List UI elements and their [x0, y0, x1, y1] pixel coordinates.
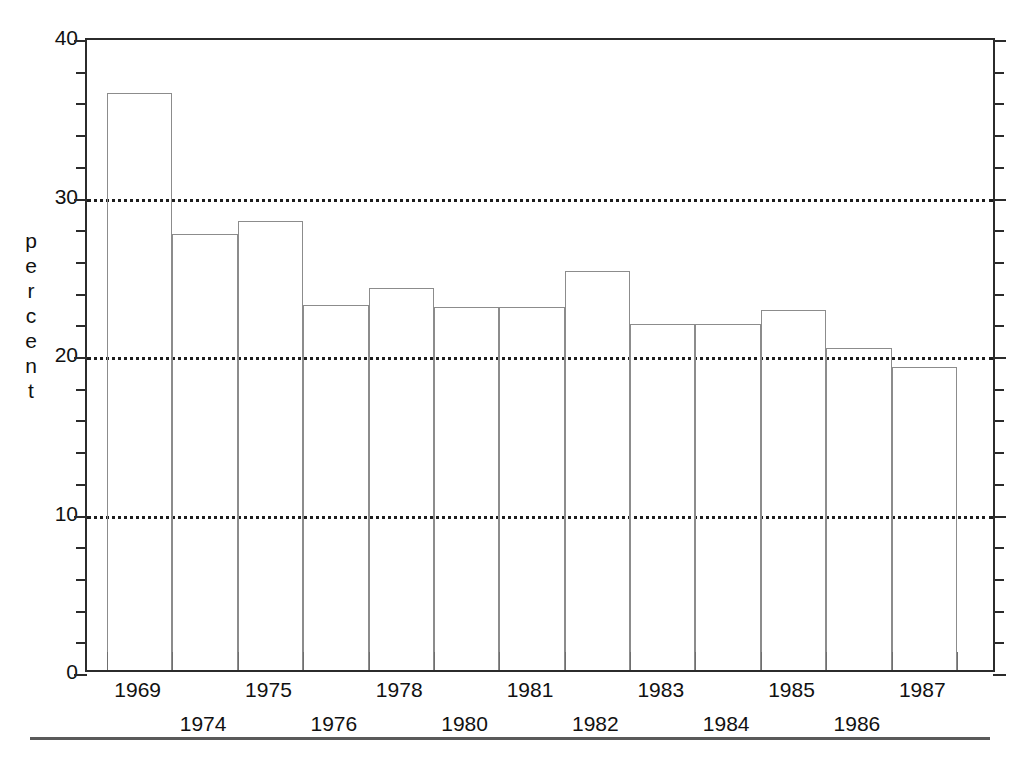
x-tick-label-1982: 1982 [572, 712, 619, 736]
x-tick-6 [499, 652, 500, 670]
y-minor-tick-14 [76, 452, 87, 454]
y-minor-tick-18 [76, 389, 87, 391]
x-tick-label-1978: 1978 [376, 678, 423, 702]
bar-1983 [630, 324, 695, 670]
bottom-rule [30, 737, 990, 740]
bar-1982 [565, 271, 630, 670]
y-major-tick-right-20 [993, 357, 1006, 359]
y-tick-label-10: 10 [34, 502, 78, 526]
x-tick-3 [303, 652, 304, 670]
y-minor-tick-right-38 [993, 72, 1004, 74]
y-minor-tick-right-36 [993, 103, 1004, 105]
y-major-tick-right-0 [993, 674, 1006, 676]
y-minor-tick-4 [76, 611, 87, 613]
x-tick-label-1980: 1980 [441, 712, 488, 736]
y-minor-tick-right-6 [993, 579, 1004, 581]
x-tick-2 [238, 652, 239, 670]
bar-1969 [107, 93, 172, 670]
x-tick-12 [892, 652, 893, 670]
bar-series [87, 40, 993, 670]
x-tick-10 [761, 652, 762, 670]
y-minor-tick-right-2 [993, 642, 1004, 644]
x-tick-13 [957, 652, 958, 670]
y-major-tick-20 [74, 357, 87, 359]
bar-1985 [761, 310, 826, 670]
x-tick-label-1981: 1981 [507, 678, 554, 702]
y-minor-tick-36 [76, 103, 87, 105]
plot-area [85, 38, 995, 672]
y-minor-tick-right-26 [993, 262, 1004, 264]
x-tick-8 [630, 652, 631, 670]
x-tick-label-1986: 1986 [834, 712, 881, 736]
y-axis-tick-labels: 010203040 [20, 0, 78, 763]
y-major-tick-40 [74, 40, 87, 42]
y-major-tick-30 [74, 199, 87, 201]
y-tick-label-40: 40 [34, 26, 78, 50]
y-tick-label-20: 20 [34, 343, 78, 367]
x-tick-11 [826, 652, 827, 670]
bar-1976 [303, 305, 368, 670]
y-minor-tick-right-18 [993, 389, 1004, 391]
bar-1978 [369, 288, 434, 670]
x-tick-7 [565, 652, 566, 670]
x-tick-label-1974: 1974 [180, 712, 227, 736]
y-minor-tick-34 [76, 135, 87, 137]
y-minor-tick-28 [76, 230, 87, 232]
y-major-tick-0 [74, 674, 87, 676]
bar-1980 [434, 307, 499, 670]
y-minor-tick-6 [76, 579, 87, 581]
x-tick-5 [434, 652, 435, 670]
y-minor-tick-right-24 [993, 294, 1004, 296]
bar-1986 [826, 348, 891, 670]
bar-chart-figure: percent 010203040 1969197419751976197819… [0, 0, 1023, 763]
y-major-tick-right-10 [993, 516, 1006, 518]
y-major-tick-right-40 [993, 40, 1006, 42]
x-tick-label-1975: 1975 [245, 678, 292, 702]
y-minor-tick-8 [76, 547, 87, 549]
y-minor-tick-26 [76, 262, 87, 264]
plot-inner [87, 40, 993, 670]
bar-1974 [172, 234, 237, 670]
y-minor-tick-22 [76, 325, 87, 327]
y-minor-tick-right-28 [993, 230, 1004, 232]
y-minor-tick-right-12 [993, 484, 1004, 486]
x-tick-1 [172, 652, 173, 670]
x-tick-label-1969: 1969 [114, 678, 161, 702]
y-tick-label-0: 0 [34, 660, 78, 684]
bar-1981 [499, 307, 564, 670]
y-minor-tick-right-14 [993, 452, 1004, 454]
y-minor-tick-right-32 [993, 167, 1004, 169]
y-minor-tick-12 [76, 484, 87, 486]
y-major-tick-10 [74, 516, 87, 518]
x-tick-label-1983: 1983 [637, 678, 684, 702]
y-tick-label-30: 30 [34, 185, 78, 209]
y-minor-tick-right-4 [993, 611, 1004, 613]
x-tick-label-1985: 1985 [768, 678, 815, 702]
y-minor-tick-2 [76, 642, 87, 644]
x-tick-label-1976: 1976 [310, 712, 357, 736]
y-minor-tick-24 [76, 294, 87, 296]
y-minor-tick-right-22 [993, 325, 1004, 327]
bar-1975 [238, 221, 303, 670]
x-tick-label-1987: 1987 [899, 678, 946, 702]
y-minor-tick-right-34 [993, 135, 1004, 137]
x-tick-9 [695, 652, 696, 670]
bar-1987 [892, 367, 957, 670]
y-minor-tick-38 [76, 72, 87, 74]
y-major-tick-right-30 [993, 199, 1006, 201]
y-minor-tick-right-8 [993, 547, 1004, 549]
x-tick-4 [369, 652, 370, 670]
bar-1984 [695, 324, 760, 670]
x-tick-label-1984: 1984 [703, 712, 750, 736]
y-minor-tick-32 [76, 167, 87, 169]
y-minor-tick-16 [76, 420, 87, 422]
x-tick-0 [107, 652, 108, 670]
y-minor-tick-right-16 [993, 420, 1004, 422]
